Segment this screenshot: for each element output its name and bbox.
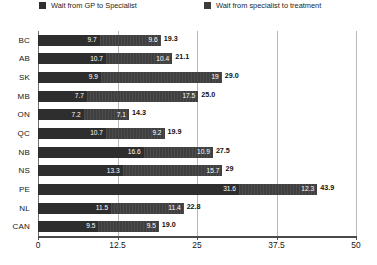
bar-segment-gp-to-specialist[interactable]: 13.3 <box>38 165 123 176</box>
bar-total-label: 19.9 <box>168 128 182 139</box>
bar-row: 31.612.343.9 <box>38 180 356 199</box>
bar-total-label: 14.3 <box>132 109 146 120</box>
chart-legend: Wait from GP to Specialist Wait from spe… <box>0 0 377 20</box>
bar-total-label: 27.5 <box>216 147 230 158</box>
legend-swatch-gp-to-specialist <box>39 2 46 9</box>
bar-segment-specialist-to-treatment[interactable]: 10.4 <box>106 53 172 64</box>
legend-item-specialist-to-treatment: Wait from specialist to treatment <box>204 2 321 9</box>
bar-segment-gp-to-specialist[interactable]: 9.7 <box>38 35 100 46</box>
bar-segment-value: 10.7 <box>90 130 106 137</box>
bar-segment-gp-to-specialist[interactable]: 10.7 <box>38 128 106 139</box>
y-axis-label-sk: SK <box>0 68 34 87</box>
y-axis-label-can: CAN <box>0 217 34 236</box>
bar-segment-gp-to-specialist[interactable]: 10.7 <box>38 53 106 64</box>
bar-segment-value: 7.2 <box>72 112 84 119</box>
bar-segment-gp-to-specialist[interactable]: 16.6 <box>38 147 144 158</box>
x-axis-tick-label: 25 <box>192 241 201 249</box>
y-axis-labels: BCABSKMBONQCNBNSPENLCAN <box>0 31 34 236</box>
y-axis-label-on: ON <box>0 106 34 125</box>
bar-row: 9.79.619.3 <box>38 31 356 50</box>
bar-row: 10.79.219.9 <box>38 124 356 143</box>
bar-row: 13.315.729 <box>38 161 356 180</box>
y-axis-label-ab: AB <box>0 50 34 69</box>
legend-label-specialist-to-treatment: Wait from specialist to treatment <box>216 2 321 9</box>
bar-row: 11.511.422.8 <box>38 199 356 218</box>
bar-segment-value: 16.6 <box>128 149 144 156</box>
bar-segment-value: 11.4 <box>168 205 183 212</box>
y-axis-label-qc: QC <box>0 124 34 143</box>
y-axis-label-mb: MB <box>0 87 34 106</box>
bar-segment-gp-to-specialist[interactable]: 11.5 <box>38 203 111 214</box>
bar-segment-value: 7.1 <box>117 112 129 119</box>
x-axis-tick-label: 0 <box>36 241 41 249</box>
y-axis-label-nb: NB <box>0 143 34 162</box>
bar-segment-value: 31.6 <box>223 186 239 193</box>
stacked-bar-can[interactable]: 9.59.519.0 <box>38 221 176 232</box>
bar-segment-value: 12.3 <box>301 186 317 193</box>
plot-area: 9.79.619.310.710.421.19.91929.07.717.525… <box>38 31 356 236</box>
bar-segment-specialist-to-treatment[interactable]: 9.2 <box>106 128 165 139</box>
legend-item-gp-to-specialist: Wait from GP to Specialist <box>39 2 137 9</box>
bar-segment-specialist-to-treatment[interactable]: 10.9 <box>144 147 213 158</box>
bar-row: 9.91929.0 <box>38 68 356 87</box>
bar-segment-specialist-to-treatment[interactable]: 12.3 <box>239 184 317 195</box>
bar-row: 7.27.114.3 <box>38 106 356 125</box>
legend-label-gp-to-specialist: Wait from GP to Specialist <box>51 2 137 9</box>
stacked-bar-ns[interactable]: 13.315.729 <box>38 165 233 176</box>
stacked-bar-on[interactable]: 7.27.114.3 <box>38 109 146 120</box>
bar-segment-value: 19 <box>211 74 221 81</box>
x-axis-tick-label: 12.5 <box>109 241 125 249</box>
stacked-bar-nl[interactable]: 11.511.422.8 <box>38 203 201 214</box>
bar-row: 16.610.927.5 <box>38 143 356 162</box>
bar-segment-value: 9.7 <box>88 37 100 44</box>
bar-total-label: 19.3 <box>164 35 178 46</box>
bar-rows: 9.79.619.310.710.421.19.91929.07.717.525… <box>38 31 356 236</box>
bar-segment-value: 9.2 <box>152 130 164 137</box>
stacked-bar-qc[interactable]: 10.79.219.9 <box>38 128 182 139</box>
bar-segment-value: 17.5 <box>182 93 198 100</box>
bar-total-label: 22.8 <box>187 203 201 214</box>
x-axis-tick-labels: 012.52537.550 <box>0 241 377 255</box>
bar-row: 7.717.525.0 <box>38 87 356 106</box>
y-axis-label-ns: NS <box>0 161 34 180</box>
x-axis-tick-label: 37.5 <box>268 241 284 249</box>
bar-segment-value: 9.5 <box>147 223 159 230</box>
stacked-bar-mb[interactable]: 7.717.525.0 <box>38 91 215 102</box>
bar-total-label: 29.0 <box>225 72 239 83</box>
legend-swatch-specialist-to-treatment <box>204 2 211 9</box>
bar-segment-specialist-to-treatment[interactable]: 9.5 <box>98 221 158 232</box>
stacked-bar-bc[interactable]: 9.79.619.3 <box>38 35 178 46</box>
bar-segment-value: 9.9 <box>89 74 101 81</box>
bar-segment-value: 15.7 <box>207 168 223 175</box>
y-axis-label-pe: PE <box>0 180 34 199</box>
bar-segment-value: 10.7 <box>90 56 106 63</box>
bar-segment-specialist-to-treatment[interactable]: 15.7 <box>123 165 223 176</box>
bar-segment-specialist-to-treatment[interactable]: 7.1 <box>84 109 129 120</box>
bar-segment-gp-to-specialist[interactable]: 7.7 <box>38 91 87 102</box>
bar-total-label: 21.1 <box>175 53 189 64</box>
stacked-bar-chart: Wait from GP to Specialist Wait from spe… <box>0 0 377 265</box>
bar-segment-gp-to-specialist[interactable]: 9.5 <box>38 221 98 232</box>
stacked-bar-sk[interactable]: 9.91929.0 <box>38 72 239 83</box>
bar-total-label: 19.0 <box>162 221 176 232</box>
bar-row: 10.710.421.1 <box>38 50 356 69</box>
bar-segment-value: 11.5 <box>96 205 111 212</box>
bar-segment-value: 10.9 <box>197 149 213 156</box>
bar-segment-gp-to-specialist[interactable]: 9.9 <box>38 72 101 83</box>
bar-segment-value: 13.3 <box>107 168 123 175</box>
stacked-bar-nb[interactable]: 16.610.927.5 <box>38 147 230 158</box>
bar-segment-specialist-to-treatment[interactable]: 17.5 <box>87 91 198 102</box>
bar-segment-value: 9.5 <box>86 223 98 230</box>
stacked-bar-pe[interactable]: 31.612.343.9 <box>38 184 334 195</box>
bar-segment-gp-to-specialist[interactable]: 31.6 <box>38 184 239 195</box>
bar-segment-value: 10.4 <box>156 56 172 63</box>
bar-total-label: 43.9 <box>320 184 334 195</box>
bar-segment-value: 9.6 <box>149 37 161 44</box>
bar-segment-specialist-to-treatment[interactable]: 11.4 <box>111 203 184 214</box>
stacked-bar-ab[interactable]: 10.710.421.1 <box>38 53 189 64</box>
bar-segment-gp-to-specialist[interactable]: 7.2 <box>38 109 84 120</box>
bar-segment-specialist-to-treatment[interactable]: 9.6 <box>100 35 161 46</box>
bar-total-label: 25.0 <box>201 91 215 102</box>
bar-total-label: 29 <box>225 165 233 176</box>
bar-segment-specialist-to-treatment[interactable]: 19 <box>101 72 222 83</box>
